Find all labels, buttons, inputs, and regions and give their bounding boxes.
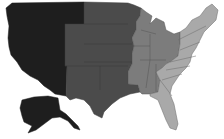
us-map — [0, 0, 224, 139]
region-alaska — [20, 96, 80, 133]
